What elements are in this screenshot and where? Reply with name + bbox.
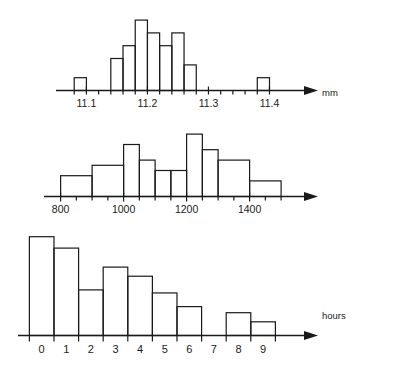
histogram-bar [257, 78, 269, 91]
histogram-bar [79, 290, 104, 336]
x-axis-tick-label: 8 [235, 343, 241, 355]
histogram-bar [226, 313, 251, 336]
histogram-bar [218, 160, 250, 196]
x-axis-arrow-icon [304, 331, 318, 340]
histogram-bar [187, 134, 203, 196]
histogram-figure: 11.111.211.311.4 mm 800100012001400 hour… [0, 0, 400, 373]
histogram-bar [139, 160, 155, 196]
x-axis-tick-label: 9 [260, 343, 266, 355]
x-axis-tick-label: 1 [63, 343, 69, 355]
chart-histogram-mm: 11.111.211.311.4 mm [0, 0, 400, 118]
histogram-bar [128, 276, 153, 335]
histogram-bar [74, 78, 86, 91]
chart-histogram-mm-svg: 11.111.211.311.4 [0, 0, 400, 118]
x-axis-tick-label: 7 [211, 343, 217, 355]
x-axis-arrow-icon [304, 86, 318, 95]
histogram-bar [111, 59, 123, 91]
histogram-bar [251, 322, 276, 336]
x-axis-tick-label: 2 [88, 343, 94, 355]
x-axis-tick-label: 11.4 [260, 97, 280, 109]
chart-histogram-hours-svg: 800100012001400 [0, 118, 400, 226]
histogram-bar [61, 176, 93, 197]
histogram-bar [160, 46, 172, 91]
x-axis-tick-label: 11.1 [77, 97, 97, 109]
bars-group [29, 237, 275, 336]
x-axis-tick-labels: 800100012001400 [52, 203, 262, 215]
histogram-bar [54, 248, 79, 335]
x-axis-arrow-icon [304, 192, 318, 201]
x-axis-tick-label: 11.2 [138, 97, 158, 109]
chart-histogram-errors-svg: 0123456789 [0, 226, 400, 373]
x-axis-ticks [29, 336, 275, 342]
histogram-bar [202, 150, 218, 197]
x-axis-tick-label: 1400 [238, 203, 262, 215]
x-axis-tick-label: 5 [162, 343, 168, 355]
x-axis-tick-label: 6 [186, 343, 192, 355]
x-axis-tick-label: 4 [137, 343, 143, 355]
bars-group [74, 20, 269, 90]
histogram-bar [123, 46, 135, 91]
histogram-bar [152, 293, 177, 336]
bars-group [61, 134, 282, 196]
x-axis-tick-label: 800 [52, 203, 70, 215]
histogram-bar [124, 145, 140, 197]
histogram-bar [171, 171, 187, 197]
x-axis-tick-labels: 11.111.211.311.4 [77, 97, 280, 109]
x-axis-tick-labels: 0123456789 [39, 343, 267, 355]
histogram-bar [250, 181, 282, 197]
histogram-bar [184, 65, 196, 91]
histogram-bar [92, 165, 124, 196]
histogram-bar [103, 267, 128, 335]
x-axis-tick-label: 1000 [112, 203, 136, 215]
chart-histogram-errors: 0123456789 no of errors per day [0, 226, 400, 373]
histogram-bar [172, 33, 184, 91]
x-axis-tick-label: 3 [112, 343, 118, 355]
histogram-bar [135, 20, 147, 90]
axis-title-mm: mm [322, 87, 338, 98]
histogram-bar [155, 171, 171, 197]
histogram-bar [29, 237, 54, 336]
x-axis-tick-label: 0 [39, 343, 45, 355]
histogram-bar [177, 307, 202, 336]
x-axis-tick-label: 11.3 [199, 97, 219, 109]
histogram-bar [147, 33, 159, 91]
x-axis-tick-label: 1200 [175, 203, 199, 215]
chart-histogram-hours: 800100012001400 hours [0, 118, 400, 226]
